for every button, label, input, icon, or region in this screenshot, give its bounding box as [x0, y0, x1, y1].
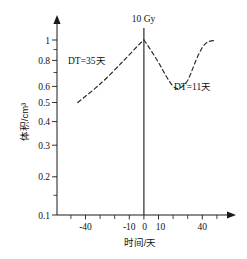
y-tick-label-05: 0.5	[38, 98, 50, 108]
dose-label: 10 Gy	[132, 14, 156, 24]
x-axis-title: 时间/天	[124, 237, 157, 248]
y-axis-arrow-icon	[53, 15, 60, 24]
x-axis-ticks	[71, 215, 217, 220]
pre-treatment-dt-annotation: DT=35天	[68, 56, 106, 66]
pre-treatment-curve	[78, 40, 144, 103]
y-tick-label-04: 0.4	[38, 117, 50, 127]
y-axis-ticks	[52, 40, 57, 215]
y-tick-label-1: 1	[45, 36, 50, 46]
x-tick-label-40: 40	[198, 222, 208, 232]
x-tick-label-10: 10	[156, 222, 166, 232]
y-tick-label-02: 0.2	[38, 172, 50, 182]
x-tick-label-neg10: -10	[123, 222, 136, 232]
chart-plot-area: 1 0.8 0.6 0.5 0.4 0.3 0.2 0.1 -40 -10 0 …	[0, 0, 247, 259]
x-axis-arrow-icon	[227, 212, 236, 219]
y-tick-label-08: 0.8	[38, 56, 50, 66]
x-tick-label-0: 0	[142, 222, 147, 232]
y-tick-label-03: 0.3	[38, 141, 50, 151]
y-tick-label-01: 0.1	[38, 211, 50, 221]
x-tick-label-neg40: -40	[79, 222, 92, 232]
chart-figure: 1 0.8 0.6 0.5 0.4 0.3 0.2 0.1 -40 -10 0 …	[0, 0, 247, 259]
post-treatment-dt-annotation: DT=11天	[174, 82, 211, 92]
y-axis-title: 体积/cm³	[19, 103, 30, 141]
y-tick-label-06: 0.6	[38, 82, 50, 92]
